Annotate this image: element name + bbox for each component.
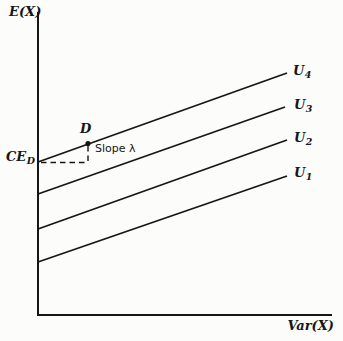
point-d-marker [85,141,90,146]
curve-u3 [38,107,285,194]
curve-label-u3-subscript: 3 [306,103,313,114]
curve-label-u2-subscript: 2 [306,136,313,147]
curve-label-u2: U2 [294,131,312,147]
slope-lambda-label: Slope λ [95,143,136,154]
curve-label-u1: U1 [294,166,312,182]
ce-label-base: CE [6,149,26,164]
curve-label-u4-base: U [293,63,304,78]
curve-label-u2-base: U [294,130,305,145]
x-axis-label: Var(X) [287,319,334,332]
indifference-curve-figure: E(X) Var(X) CED D Slope λ U4 U3 U2 U1 [0,0,343,341]
curve-u1 [38,176,287,262]
curve-label-u1-base: U [294,165,305,180]
ce-label-subscript: D [27,155,35,166]
curve-label-u3: U3 [294,98,312,114]
y-axis-label: E(X) [9,5,41,18]
curve-label-u4-subscript: 4 [305,69,312,80]
curve-label-u3-base: U [294,97,305,112]
curve-label-u1-subscript: 1 [306,171,313,182]
curve-label-u4: U4 [293,64,311,80]
certainty-equivalent-label: CED [6,150,35,166]
point-d-label: D [80,122,91,135]
curve-u2 [38,140,287,229]
curve-u4 [38,73,287,162]
diagram-canvas [0,0,343,341]
